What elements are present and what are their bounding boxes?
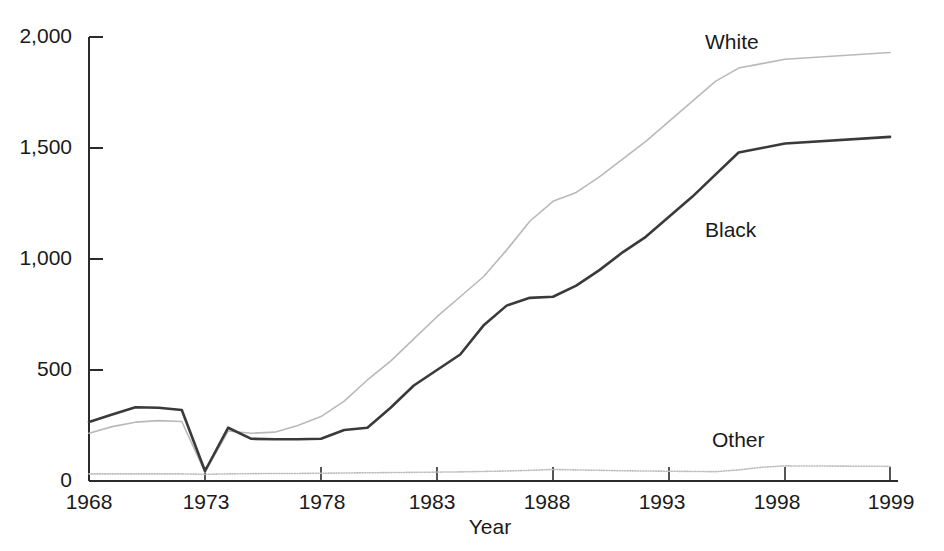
series-label-other: Other: [712, 428, 765, 452]
y-tick-label-500: 500: [0, 357, 72, 381]
y-tick-label-0: 0: [0, 468, 72, 492]
x-tick-label-1998: 1998: [727, 490, 827, 514]
series-line-white: [89, 53, 890, 473]
x-tick-label-1983: 1983: [382, 490, 482, 514]
x-tick-label-1978: 1978: [272, 490, 372, 514]
x-tick-label-1993: 1993: [612, 490, 712, 514]
series-group: [89, 53, 890, 475]
y-tick-label-1000: 1,000: [0, 246, 72, 270]
x-axis-title: Year: [440, 515, 540, 539]
x-tick-label-1999: 1999: [841, 490, 941, 514]
y-tick-label-2000: 2,000: [0, 24, 72, 48]
line-chart: 2,000 1,500 1,000 500 0 1968 1973 1978 1…: [0, 0, 944, 551]
chart-plot-area: [0, 0, 944, 551]
series-line-other: [89, 466, 890, 474]
series-label-white: White: [705, 30, 759, 54]
y-tick-label-1500: 1,500: [0, 135, 72, 159]
axes-group: [89, 37, 898, 481]
x-tick-label-1968: 1968: [39, 490, 139, 514]
series-label-black: Black: [705, 218, 756, 242]
x-tick-label-1973: 1973: [156, 490, 256, 514]
x-tick-label-1988: 1988: [497, 490, 597, 514]
series-line-black: [89, 137, 890, 471]
